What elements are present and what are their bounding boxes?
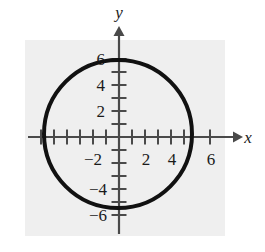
y-tick-label--4: −4 <box>89 180 108 199</box>
x-tick-label-4: 4 <box>168 150 177 169</box>
y-tick-label-4: 4 <box>97 76 106 95</box>
x-tick-label-2: 2 <box>142 150 151 169</box>
y-axis-label: y <box>113 3 123 22</box>
y-tick-label--6: −6 <box>89 206 107 225</box>
graph-figure: −2 2 4 6 x 6 4 2 −4 −6 y <box>0 0 265 252</box>
x-tick-label--2: −2 <box>84 150 102 169</box>
x-tick-label-6: 6 <box>207 150 216 169</box>
y-tick-label-2: 2 <box>97 102 106 121</box>
x-axis-label: x <box>243 128 252 147</box>
